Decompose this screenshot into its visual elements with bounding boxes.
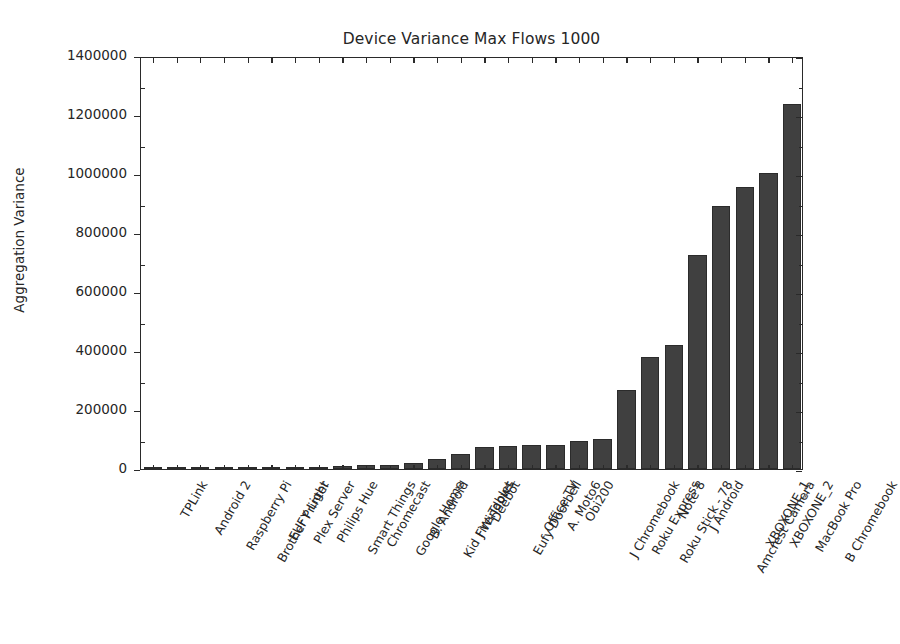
x-axis-tick-mark: [366, 465, 367, 470]
x-axis-tick-mark: [295, 465, 296, 470]
x-axis-tick-mark-top: [508, 58, 509, 63]
y-axis-minor-tick-mark-right: [799, 324, 803, 325]
bar: [641, 357, 659, 469]
y-axis-minor-tick-mark: [141, 88, 145, 89]
x-axis-tick-mark-top: [484, 58, 485, 63]
plot-area: [140, 57, 803, 470]
x-axis-tick-mark: [177, 465, 178, 470]
y-axis-tick-mark-right: [796, 176, 802, 177]
x-axis-tick-mark: [461, 465, 462, 470]
y-axis-tick-mark-right: [796, 235, 802, 236]
y-axis-minor-tick-mark-right: [799, 147, 803, 148]
x-axis-tick-mark-top: [579, 58, 580, 63]
x-axis-tick-mark: [319, 465, 320, 470]
bar: [783, 104, 801, 469]
x-axis-tick-mark: [555, 465, 556, 470]
x-axis-tick-mark: [153, 465, 154, 470]
x-axis-tick-mark-top: [768, 58, 769, 63]
bar: [665, 345, 683, 469]
y-axis-tick-mark-right: [796, 412, 802, 413]
chart-title: Device Variance Max Flows 1000: [140, 30, 803, 48]
x-axis-tick-mark-top: [248, 58, 249, 63]
x-axis-tick-mark-top: [437, 58, 438, 63]
x-axis-tick-label: TPLink: [177, 478, 210, 521]
x-axis-tick-mark-top: [603, 58, 604, 63]
y-axis-minor-tick-mark: [141, 383, 145, 384]
x-axis-tick-mark: [271, 465, 272, 470]
x-axis-tick-mark-top: [342, 58, 343, 63]
bar: [617, 390, 635, 469]
x-axis-tick-mark: [224, 465, 225, 470]
y-axis-minor-tick-mark: [141, 324, 145, 325]
x-axis-tick-mark-top: [271, 58, 272, 63]
x-axis-tick-mark: [413, 465, 414, 470]
y-axis-tick-label: 200000: [75, 401, 127, 417]
x-axis-tick-mark-top: [177, 58, 178, 63]
x-axis-tick-mark-top: [532, 58, 533, 63]
bar: [688, 255, 706, 469]
y-axis-minor-tick-mark-right: [799, 88, 803, 89]
x-axis-tick-mark-top: [745, 58, 746, 63]
x-axis-tick-mark-top: [153, 58, 154, 63]
x-axis-tick-mark-top: [390, 58, 391, 63]
x-axis-tick-mark: [390, 465, 391, 470]
x-axis-tick-mark: [508, 465, 509, 470]
x-axis-tick-mark-top: [295, 58, 296, 63]
y-axis-tick-mark-right: [796, 58, 802, 59]
bar: [712, 206, 730, 469]
y-axis-tick-label: 600000: [75, 283, 127, 299]
y-axis-minor-tick-mark: [141, 147, 145, 148]
x-axis-tick-mark: [248, 465, 249, 470]
x-axis-tick-mark: [626, 465, 627, 470]
x-axis-tick-mark: [579, 465, 580, 470]
x-axis-tick-mark: [650, 465, 651, 470]
y-axis-minor-tick-mark: [141, 206, 145, 207]
x-axis-tick-mark-top: [697, 58, 698, 63]
x-axis-tick-mark: [792, 465, 793, 470]
x-axis-tick-mark-top: [792, 58, 793, 63]
y-axis-minor-tick-mark-right: [799, 206, 803, 207]
x-axis-tick-mark-top: [461, 58, 462, 63]
x-axis-tick-mark: [342, 465, 343, 470]
x-axis-tick-mark: [768, 465, 769, 470]
y-axis-minor-tick-mark: [141, 265, 145, 266]
y-axis-minor-tick-mark-right: [799, 265, 803, 266]
y-axis-tick-mark-right: [796, 471, 802, 472]
x-axis-tick-mark-top: [413, 58, 414, 63]
x-axis-tick-mark: [484, 465, 485, 470]
y-axis-tick-label: 1200000: [67, 106, 127, 122]
y-axis-tick-mark-right: [796, 294, 802, 295]
x-axis-tick-mark: [603, 465, 604, 470]
y-axis-minor-tick-mark-right: [799, 383, 803, 384]
x-axis-tick-mark: [745, 465, 746, 470]
x-axis-tick-mark-top: [626, 58, 627, 63]
x-axis-labels: TPLinkAndroid 2Raspberry PiBrother Print…: [140, 478, 803, 644]
x-axis-tick-mark: [200, 465, 201, 470]
x-axis-tick-mark: [674, 465, 675, 470]
x-axis-tick-mark: [721, 465, 722, 470]
y-axis-tick-mark-right: [796, 353, 802, 354]
y-axis-minor-tick-mark: [141, 442, 145, 443]
bar: [759, 173, 777, 469]
x-axis-tick-mark-top: [555, 58, 556, 63]
y-axis-tick-mark-right: [796, 117, 802, 118]
x-axis-tick-mark-top: [200, 58, 201, 63]
y-axis-tick-label: 1000000: [67, 165, 127, 181]
x-axis-tick-mark: [697, 465, 698, 470]
x-axis-tick-mark: [532, 465, 533, 470]
x-axis-tick-label: Android 2: [210, 478, 253, 537]
y-axis-minor-tick-mark-right: [799, 442, 803, 443]
y-axis-tick-label: 0: [118, 460, 127, 476]
y-axis-tick-label: 1400000: [67, 47, 127, 63]
x-axis-tick-mark-top: [319, 58, 320, 63]
x-axis-tick-mark-top: [650, 58, 651, 63]
x-axis-tick-mark: [437, 465, 438, 470]
y-axis-tick-label: 400000: [75, 342, 127, 358]
x-axis-tick-mark-top: [721, 58, 722, 63]
x-axis-tick-mark-top: [224, 58, 225, 63]
y-axis-label: Aggregation Variance: [11, 90, 27, 390]
bar: [736, 187, 754, 469]
x-axis-tick-mark-top: [674, 58, 675, 63]
x-axis-tick-mark-top: [366, 58, 367, 63]
